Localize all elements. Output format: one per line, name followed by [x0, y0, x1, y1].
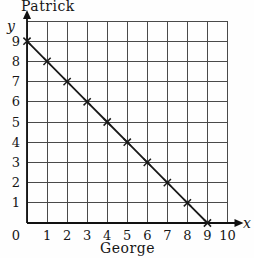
- svg-text:2: 2: [12, 175, 20, 190]
- chart-canvas: 012345678910123456789 y x: [0, 0, 254, 258]
- svg-text:8: 8: [12, 54, 20, 69]
- x-axis-title: George: [27, 240, 228, 256]
- svg-text:1: 1: [12, 195, 20, 210]
- svg-text:0: 0: [12, 228, 20, 243]
- x-axis-symbol: x: [243, 215, 251, 231]
- grid-lines: [27, 21, 228, 223]
- svg-text:5: 5: [12, 115, 20, 130]
- svg-text:4: 4: [12, 135, 20, 150]
- y-axis-symbol: y: [6, 18, 16, 34]
- chart-title: Patrick: [21, 0, 75, 14]
- chart-figure: Patrick 012345678910123456789 y x George: [0, 0, 254, 258]
- svg-text:6: 6: [12, 94, 20, 109]
- data-series: [23, 38, 211, 227]
- svg-text:3: 3: [12, 155, 20, 170]
- svg-text:7: 7: [12, 74, 20, 89]
- svg-text:9: 9: [12, 34, 20, 49]
- axes: [23, 10, 244, 227]
